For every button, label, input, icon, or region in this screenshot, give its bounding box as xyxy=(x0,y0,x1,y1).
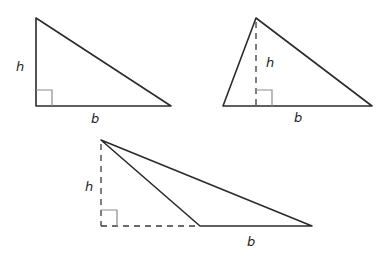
obtuse-triangle: h b xyxy=(85,140,312,249)
base-label: b xyxy=(91,111,99,126)
height-label: h xyxy=(16,59,24,74)
acute-triangle-outline xyxy=(223,18,372,106)
triangle-diagram: h b h b h b xyxy=(0,0,391,259)
right-angle-marker xyxy=(36,90,52,106)
height-label: h xyxy=(266,55,274,70)
right-angle-marker xyxy=(256,90,272,106)
obtuse-triangle-outline xyxy=(101,140,312,226)
base-label: b xyxy=(294,110,302,125)
height-label: h xyxy=(85,179,93,194)
right-triangle-outline xyxy=(36,18,171,106)
base-label: b xyxy=(247,234,255,249)
acute-triangle: h b xyxy=(223,18,372,125)
right-angle-marker xyxy=(101,210,117,226)
right-triangle: h b xyxy=(16,18,171,126)
